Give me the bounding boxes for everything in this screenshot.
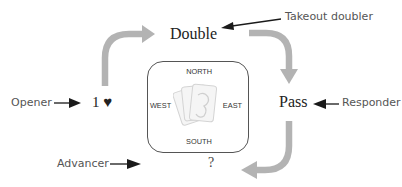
seat-south-label: SOUTH [186,137,212,146]
pointer-arrow-responder [313,99,339,109]
pointer-arrow-opener [54,98,81,108]
pointer-arrow-advancer [110,159,141,169]
pointer-arrow-takeout [221,19,281,30]
bid-one-heart: 1 ♥ [92,94,112,111]
bid-double: Double [170,25,217,43]
label-advancer: Advancer [57,157,109,170]
bid-unknown: ? [208,155,214,171]
label-takeout-doubler: Takeout doubler [285,10,373,23]
seat-east-label: EAST [223,101,242,110]
flow-arrow-double-to-pass [249,33,298,84]
bidding-sequence-diagram: NORTH SOUTH WEST EAST Double Pass 1 ♥ ? … [0,0,402,187]
playing-cards-icon [173,81,223,133]
seat-north-label: NORTH [186,67,212,76]
label-opener: Opener [11,96,52,109]
bid-pass: Pass [279,93,307,111]
seat-west-label: WEST [150,101,171,110]
label-responder: Responder [342,96,401,109]
